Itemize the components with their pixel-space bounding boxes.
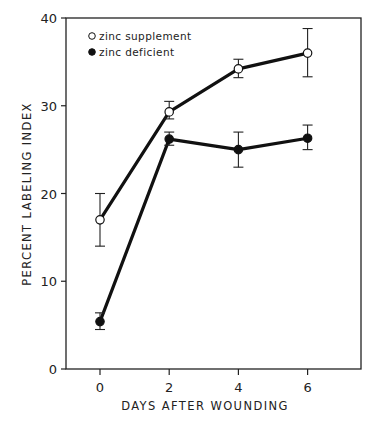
legend-entry: zinc supplement — [99, 30, 192, 42]
series-line — [100, 53, 308, 220]
x-axis-label: DAYS AFTER WOUNDING — [121, 399, 289, 413]
open-circle-marker — [234, 65, 242, 73]
open-circle-marker — [96, 216, 104, 224]
filled-circle-marker — [96, 317, 104, 325]
x-tick-label: 0 — [96, 380, 104, 395]
x-axis-ticks: 0246 — [96, 369, 312, 395]
plot-border — [66, 18, 361, 369]
y-tick-label: 30 — [40, 99, 57, 114]
plot-frame — [66, 18, 361, 369]
open-circle-marker — [303, 49, 311, 57]
series-zinc-deficient — [95, 125, 313, 329]
x-tick-label: 4 — [234, 380, 242, 395]
filled-circle-marker — [303, 134, 311, 142]
line-chart: 010203040 0246 PERCENT LABELING INDEX DA… — [0, 0, 374, 425]
x-tick-label: 6 — [303, 380, 311, 395]
y-tick-label: 20 — [40, 187, 57, 202]
x-tick-label: 2 — [165, 380, 173, 395]
legend-filled-circle-icon — [89, 49, 96, 56]
legend: zinc supplementzinc deficient — [89, 30, 192, 58]
filled-circle-marker — [234, 145, 242, 153]
data-series — [95, 29, 313, 330]
series-zinc-supplement — [95, 29, 313, 247]
y-tick-label: 40 — [40, 11, 57, 26]
y-axis-label: PERCENT LABELING INDEX — [20, 102, 34, 286]
y-axis-ticks: 010203040 — [40, 11, 66, 377]
legend-entry: zinc deficient — [99, 46, 174, 58]
open-circle-marker — [165, 108, 173, 116]
filled-circle-marker — [165, 135, 173, 143]
y-tick-label: 10 — [40, 274, 57, 289]
legend-open-circle-icon — [89, 33, 96, 40]
y-tick-label: 0 — [49, 362, 57, 377]
series-line — [100, 138, 308, 321]
